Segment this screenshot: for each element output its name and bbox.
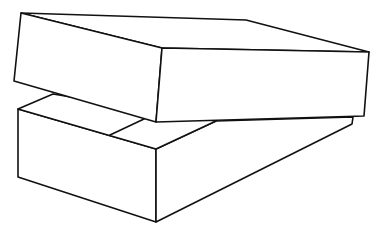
box-drawing — [0, 0, 383, 234]
lid-front-face — [156, 48, 369, 122]
box-illustration — [0, 0, 383, 234]
